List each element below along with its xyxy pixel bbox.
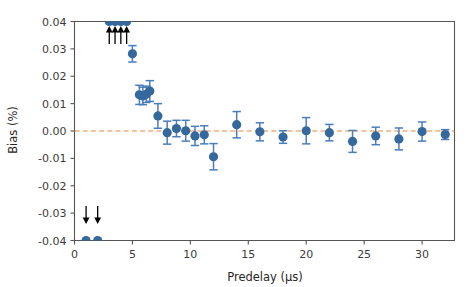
y-tick-label: 0.02: [42, 70, 67, 83]
y-axis-ticks-group: -0.04-0.03-0.02-0.010.000.010.020.030.04: [38, 16, 74, 248]
data-marker: [417, 127, 426, 136]
annotations-group: [83, 26, 130, 224]
y-tick-label: -0.04: [38, 235, 66, 248]
arrow-head: [117, 26, 124, 33]
up-arrow-3: [117, 26, 124, 44]
x-axis-ticks-group: 051015202530: [71, 241, 429, 261]
data-marker: [302, 126, 311, 135]
data-marker-clipped: [93, 236, 102, 245]
y-tick-label: -0.03: [38, 207, 66, 220]
data-marker-clipped: [122, 17, 131, 26]
chart-figure: -0.04-0.03-0.02-0.010.000.010.020.030.04…: [0, 0, 475, 287]
x-tick-label: 30: [415, 248, 429, 261]
bias-vs-predelay-scatter-plot: -0.04-0.03-0.02-0.010.000.010.020.030.04…: [0, 0, 475, 287]
arrow-head: [123, 26, 130, 33]
data-marker: [278, 132, 287, 141]
data-marker: [209, 152, 218, 161]
data-marker: [153, 111, 162, 120]
x-tick-label: 25: [357, 248, 371, 261]
data-marker: [441, 130, 450, 139]
arrow-head: [106, 26, 113, 33]
y-axis-label: Bias (%): [6, 106, 20, 154]
data-marker: [394, 134, 403, 143]
data-marker: [190, 131, 199, 140]
up-arrow-4: [123, 26, 130, 44]
x-tick-label: 5: [129, 248, 136, 261]
up-arrow-2: [112, 26, 119, 44]
x-tick-label: 15: [241, 248, 255, 261]
x-tick-label: 0: [71, 248, 78, 261]
data-marker: [172, 124, 181, 133]
down-arrow-1: [83, 206, 90, 224]
y-tick-label: 0.00: [42, 125, 67, 138]
data-marker: [348, 137, 357, 146]
up-arrow-1: [106, 26, 113, 44]
data-marker: [200, 130, 209, 139]
data-marker: [181, 126, 190, 135]
data-marker: [371, 131, 380, 140]
y-tick-label: -0.01: [38, 152, 66, 165]
data-marker: [325, 128, 334, 137]
data-marker: [232, 120, 241, 129]
arrow-head: [83, 218, 90, 225]
y-tick-label: -0.02: [38, 180, 66, 193]
y-tick-label: 0.04: [42, 16, 67, 29]
data-marker: [128, 49, 137, 58]
arrow-head: [112, 26, 119, 33]
data-marker: [255, 127, 264, 136]
x-axis-label: Predelay (μs): [227, 270, 303, 284]
down-arrow-2: [94, 206, 101, 224]
y-tick-label: 0.01: [42, 98, 67, 111]
data-marker: [163, 128, 172, 137]
x-tick-label: 20: [299, 248, 313, 261]
data-marker-clipped: [81, 236, 90, 245]
errorbars-group: [128, 46, 449, 170]
y-tick-label: 0.03: [42, 43, 67, 56]
data-marker: [145, 86, 154, 95]
x-tick-label: 10: [183, 248, 197, 261]
arrow-head: [94, 218, 101, 225]
